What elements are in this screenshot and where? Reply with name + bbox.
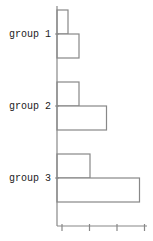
category-labels: group 1group 2group 3 (9, 29, 51, 184)
category-label: group 2 (9, 101, 51, 112)
bar-1-2 (57, 34, 79, 58)
bar-2-2 (57, 106, 107, 130)
bar-1-1 (57, 10, 68, 34)
category-label: group 1 (9, 29, 51, 40)
bar-2-1 (57, 82, 79, 106)
bars-layer (57, 10, 140, 202)
category-label: group 3 (9, 173, 51, 184)
bar-3-2 (57, 178, 140, 202)
bar-3-1 (57, 154, 90, 178)
bar-chart: group 1group 2group 3 (0, 0, 153, 241)
